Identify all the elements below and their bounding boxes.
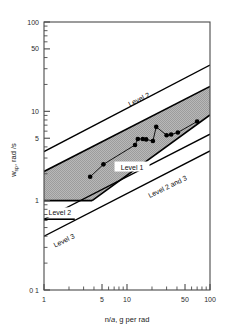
y-tick-label: 1 bbox=[35, 197, 39, 204]
y-axis-title: wsp, rad /s bbox=[9, 143, 19, 178]
x-tick-label: 5 bbox=[100, 296, 104, 303]
y-tick-label: 100 bbox=[27, 19, 39, 26]
data-point bbox=[164, 133, 169, 138]
x-tick-label: 50 bbox=[181, 296, 189, 303]
y-tick-label: 5 bbox=[35, 135, 39, 142]
chart-figure: Level 2Level 1Level 2 and 3Level 2Level … bbox=[0, 0, 234, 335]
x-tick-label: 1 bbox=[42, 296, 46, 303]
data-point bbox=[151, 139, 156, 144]
data-point bbox=[133, 143, 138, 148]
data-point bbox=[136, 137, 141, 142]
x-tick-label: 100 bbox=[204, 296, 216, 303]
band-label-text: Level 2 bbox=[49, 209, 72, 216]
data-point bbox=[144, 137, 149, 142]
x-axis-title: n/a, g per rad bbox=[105, 315, 150, 324]
y-tick-label: 10 bbox=[31, 108, 39, 115]
y-tick-label: 0 1 bbox=[29, 287, 39, 294]
y-axis-title-units: , rad /s bbox=[9, 143, 18, 166]
x-tick-label: 10 bbox=[123, 296, 131, 303]
data-point bbox=[88, 175, 93, 180]
band-label-level-2: Level 2 bbox=[42, 207, 77, 217]
band-label-level-1: Level 1 bbox=[115, 162, 150, 172]
band-label-text: Level 1 bbox=[121, 164, 144, 171]
data-point bbox=[195, 119, 200, 124]
x-axis-title-units: , g per rad bbox=[115, 315, 149, 324]
short-period-frequency-chart: Level 2Level 1Level 2 and 3Level 2Level … bbox=[0, 0, 234, 335]
svg-text:wsp, rad /s: wsp, rad /s bbox=[9, 143, 19, 178]
data-point bbox=[154, 125, 159, 130]
y-tick-label: 50 bbox=[31, 45, 39, 52]
svg-text:n/a, g per rad: n/a, g per rad bbox=[105, 315, 150, 324]
data-point bbox=[176, 130, 181, 135]
data-point bbox=[169, 132, 174, 137]
data-point bbox=[101, 162, 106, 167]
